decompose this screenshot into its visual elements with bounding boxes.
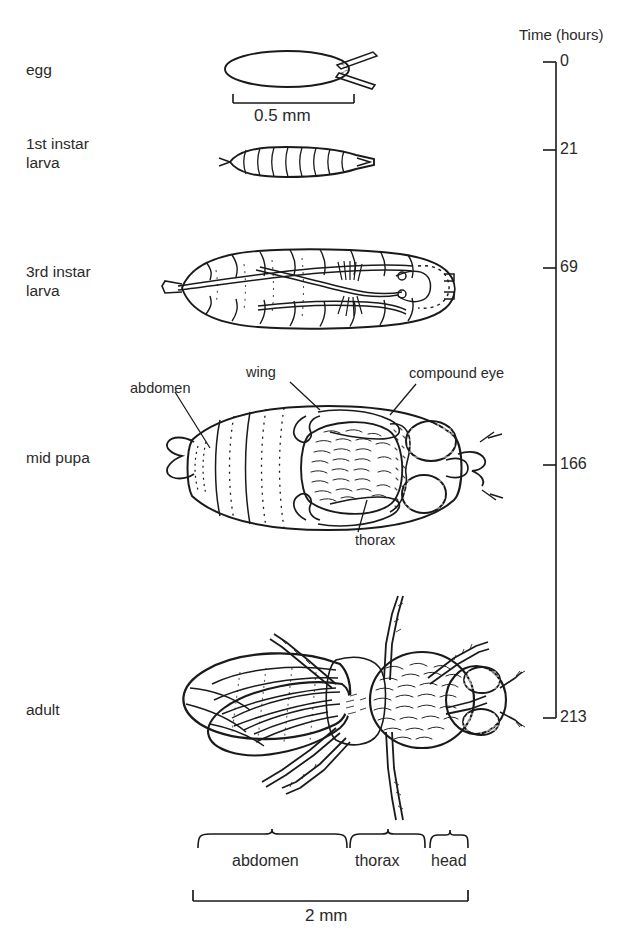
time-tick-label-69: 69 <box>560 258 578 276</box>
egg-scale-bar <box>230 92 360 106</box>
time-tick-label-213: 213 <box>560 708 587 726</box>
adult-compound-eye-upper <box>464 667 500 693</box>
adult-region-label-abdomen: abdomen <box>232 851 299 870</box>
stage-label-mid-pupa: mid pupa <box>26 448 90 467</box>
adult-region-label-thorax: thorax <box>355 851 399 870</box>
third-instar-larva-illustration <box>160 240 460 336</box>
adult-compound-eye-lower <box>463 709 499 735</box>
egg-illustration <box>215 40 395 96</box>
time-tick-label-0: 0 <box>560 52 569 70</box>
adult-region-label-head: head <box>431 851 467 870</box>
pupa-compound-eye-upper <box>406 421 456 461</box>
stage-label-adult: adult <box>26 700 60 719</box>
mid-pupa-illustration <box>158 398 506 538</box>
adult-scale-bar <box>190 888 480 904</box>
time-axis-title: Time (hours) <box>519 26 603 43</box>
time-tick-label-21: 21 <box>560 140 578 158</box>
adult-fly-illustration <box>170 592 490 824</box>
pupa-compound-eye-lower <box>402 475 446 513</box>
stage-label-first-instar-larva: 1st instar larva <box>26 134 89 172</box>
adult-scale-label: 2 mm <box>305 906 348 926</box>
stage-label-egg: egg <box>26 60 52 79</box>
first-instar-larva-illustration <box>216 142 386 182</box>
egg-scale-label: 0.5 mm <box>254 106 311 126</box>
time-tick-label-166: 166 <box>560 455 587 473</box>
stage-label-third-instar-larva: 3rd instar larva <box>26 262 91 300</box>
